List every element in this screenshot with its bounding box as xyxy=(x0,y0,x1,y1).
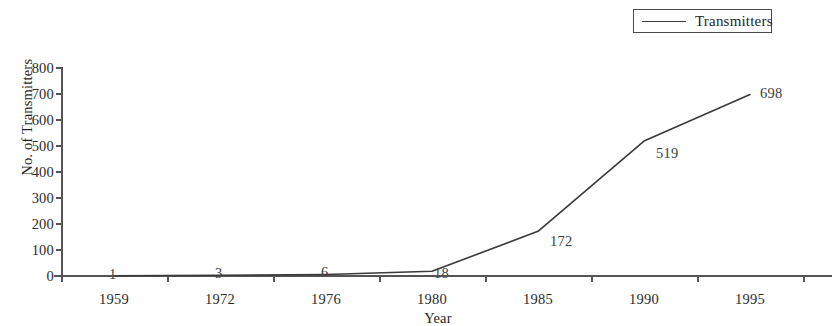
axis-lines xyxy=(54,67,832,276)
series-lines xyxy=(114,95,750,276)
series-line-0 xyxy=(114,95,750,276)
axis-tick-marks xyxy=(56,68,804,282)
plot-area xyxy=(0,0,832,326)
line-chart: Transmitters No. of Transmitters 8007006… xyxy=(0,0,832,326)
